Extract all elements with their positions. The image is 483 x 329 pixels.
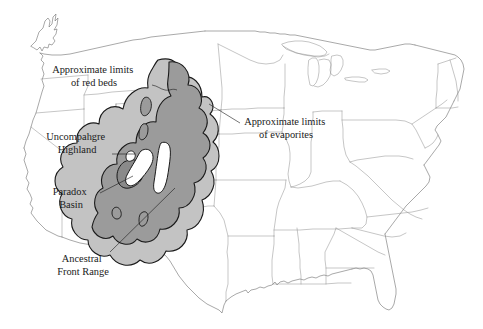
state-line-mn-wi [218, 44, 283, 64]
state-line-la-ms [272, 236, 274, 284]
state-line-ky-tn [274, 228, 352, 230]
us-national-border [31, 14, 58, 51]
state-line-wv-pa [350, 156, 413, 162]
label-line: Approximate limits [52, 64, 133, 75]
florida-peninsula-coast [352, 234, 396, 310]
uncompahgre-highland-tip [126, 151, 135, 161]
state-line-in-oh [313, 111, 342, 112]
label-line: Basin [59, 199, 83, 210]
great-lakes-northern-border [205, 31, 415, 50]
label-line: of evaporites [259, 129, 313, 140]
label-line: Uncompahgre [46, 131, 105, 142]
geologic-map-figure: Approximate limits of red beds Approxima… [0, 0, 483, 329]
lake-ontario [372, 69, 390, 74]
state-line-va-wv-md [350, 162, 422, 219]
state-line-tn-ms-al [273, 283, 351, 284]
state-line-wi-il [284, 64, 285, 108]
lake-huron [330, 55, 343, 76]
label-line: Ancestral [62, 253, 102, 264]
state-line-ky-va [340, 181, 367, 228]
state-line-nd-mn [218, 44, 222, 110]
texas-mexico-border [160, 251, 226, 313]
state-line-mn-ia [219, 108, 284, 110]
pacific-northwest-coast [24, 53, 44, 148]
state-line-ny-vt-ma [412, 100, 447, 124]
state-line-ny-new-england [436, 64, 438, 108]
state-line-mo-il [282, 132, 291, 187]
label-line: Approximate limits [244, 116, 325, 127]
lake-superior [282, 41, 327, 56]
state-line-sc-nc [352, 228, 406, 237]
lake-michigan [308, 58, 319, 86]
state-line-ms-al [297, 228, 301, 284]
state-line-sd-ia-mn [219, 110, 221, 134]
state-line-oh-pa-wv [342, 111, 350, 162]
mid-atlantic-coast [424, 101, 454, 165]
label-line: Highland [58, 144, 97, 155]
label-line: of red beds [71, 77, 117, 88]
state-line-pa-nj [425, 135, 438, 148]
state-line-ma-ct-ri [436, 107, 458, 108]
geologic-areas-group [55, 59, 219, 265]
label-line: Front Range [57, 266, 109, 277]
state-line-tx-la [214, 206, 228, 301]
label-ancestral-front-range: Ancestral Front Range [57, 253, 109, 277]
label-approximate-limits-of-red-beds: Approximate limits of red beds [52, 64, 136, 88]
great-lakes-group [282, 41, 390, 87]
label-approximate-limits-of-evaporites: Approximate limits of evaporites [244, 116, 328, 140]
gulf-coast [226, 269, 352, 301]
label-line: Paradox [53, 186, 88, 197]
small-basin-southwest-circle [112, 207, 121, 219]
state-line-pa-ny [342, 120, 425, 148]
state-line-or-ca-nv [36, 109, 84, 113]
new-england-coast [415, 45, 464, 101]
state-line-vt-nh [438, 58, 456, 64]
lake-erie [345, 77, 368, 82]
michigan-lower-peninsula [314, 59, 331, 87]
state-line-ar-ms-tn [274, 180, 286, 236]
canadian-border-west [40, 31, 205, 55]
state-line-nc-va [367, 208, 428, 217]
map-canvas: Approximate limits of red beds Approxima… [0, 0, 483, 329]
state-line-ga-sc [336, 228, 385, 255]
